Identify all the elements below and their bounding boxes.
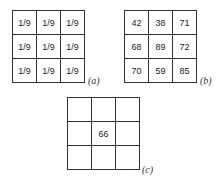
grid-cell: 59 (149, 59, 173, 83)
grid-cell (68, 122, 92, 146)
grid-cell: 71 (173, 11, 197, 35)
grid-cell: 1/9 (37, 11, 61, 35)
grid-cell: 70 (125, 59, 149, 83)
panel-label-a: (a) (88, 75, 100, 86)
grid-cell: 1/9 (37, 59, 61, 83)
grid-cell: 68 (125, 35, 149, 59)
grid-cell: 1/9 (61, 59, 85, 83)
grid-cell (116, 98, 140, 122)
grid-cell: 66 (92, 122, 116, 146)
grid-cell (68, 98, 92, 122)
grid-cell (68, 146, 92, 170)
grid-cell (92, 98, 116, 122)
grid-cell: 1/9 (61, 11, 85, 35)
grid-cell: 42 (125, 11, 149, 35)
grid-cell (92, 146, 116, 170)
grid-cell: 1/9 (37, 35, 61, 59)
grid-cell: 89 (149, 35, 173, 59)
grid-cell (116, 122, 140, 146)
grid-cell (116, 146, 140, 170)
pixel-values-grid: 42 38 71 68 89 72 70 59 85 (124, 10, 197, 83)
panel-label-c: (c) (142, 164, 153, 175)
averaging-mask-grid: 1/9 1/9 1/9 1/9 1/9 1/9 1/9 1/9 1/9 (12, 10, 85, 83)
grid-cell: 1/9 (61, 35, 85, 59)
grid-cell: 38 (149, 11, 173, 35)
grid-cell: 1/9 (13, 59, 37, 83)
output-grid: 66 (67, 97, 140, 170)
grid-cell: 72 (173, 35, 197, 59)
grid-cell: 85 (173, 59, 197, 83)
grid-cell: 1/9 (13, 11, 37, 35)
panel-label-b: (b) (200, 75, 212, 86)
grid-cell: 1/9 (13, 35, 37, 59)
